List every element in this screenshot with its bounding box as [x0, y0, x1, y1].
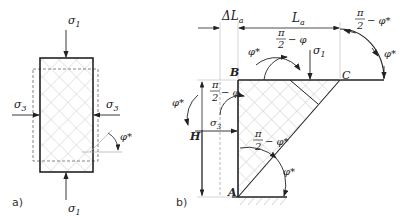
diagram-canvas: σ1 σ1 σ3 σ3 φ* a)	[0, 0, 408, 220]
svg-text:2: 2	[356, 20, 363, 31]
phi-arc-left	[187, 95, 198, 125]
phi-star-left-label: φ*	[172, 97, 184, 108]
frac-left-b: π 2 − φ	[210, 79, 240, 103]
phi-star-right-label: φ*	[384, 48, 396, 59]
svg-text:− φ*: − φ*	[265, 136, 289, 147]
svg-text:− φ: − φ	[221, 87, 240, 98]
svg-text:2: 2	[211, 92, 218, 103]
frac-top-right: π 2 − φ*	[355, 7, 391, 31]
svg-text:− φ: − φ	[288, 34, 307, 45]
ground-hatch	[240, 198, 286, 205]
phi-star-label: φ*	[120, 131, 132, 142]
sigma1-bottom-label: σ1	[68, 202, 81, 217]
la-label: La	[291, 11, 305, 27]
figure-b: ΔLa La B C A H σ1 σ3 π 2 − φ* φ* π 2 − φ…	[172, 7, 396, 209]
svg-text:π: π	[254, 128, 262, 139]
panel-b-label: b)	[176, 196, 187, 209]
figure-a: σ1 σ1 σ3 σ3 φ* a)	[12, 14, 132, 217]
delta-la-label: ΔLa	[221, 9, 244, 25]
panel-a-label: a)	[12, 196, 23, 209]
svg-text:− φ*: − φ*	[367, 15, 391, 26]
specimen-hatch	[40, 58, 93, 172]
h-label: H	[189, 130, 201, 143]
point-b-label: B	[229, 66, 239, 79]
phi-star-top-label: φ*	[248, 46, 260, 57]
frac-upper-middle: π 2 − φ	[276, 27, 307, 50]
svg-text:2: 2	[254, 141, 261, 152]
sigma3-right-label: σ3	[106, 98, 119, 113]
svg-text:2: 2	[277, 39, 284, 50]
point-a-label: A	[227, 186, 237, 199]
phi-arc	[108, 133, 118, 150]
phi-star-bottom-label: φ*	[283, 166, 295, 177]
sigma3-left-label: σ3	[14, 98, 27, 113]
phi-arc-top	[264, 57, 287, 80]
sigma1-label: σ1	[313, 44, 326, 59]
svg-text:π: π	[356, 7, 364, 18]
svg-text:π: π	[211, 79, 219, 90]
phistar-arc-bottom	[276, 158, 286, 196]
sigma1-top-label: σ1	[68, 14, 81, 29]
point-c-label: C	[342, 69, 351, 82]
svg-text:π: π	[277, 27, 285, 38]
